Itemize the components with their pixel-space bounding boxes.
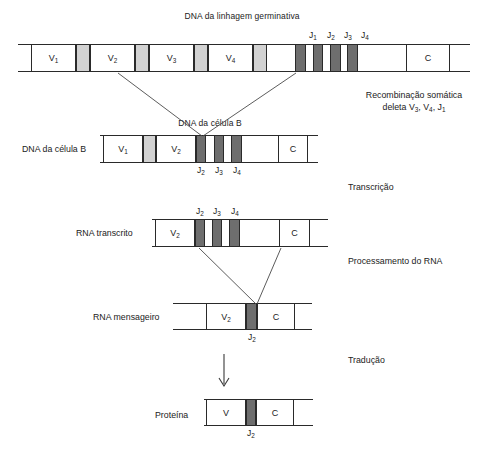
segment-label-c: C (279, 144, 307, 154)
b-cell-dna-bar: V1 V2 C (100, 135, 318, 163)
spacer-2 (135, 45, 149, 71)
segment-label-c: C (407, 53, 449, 63)
segment-j2 (246, 304, 257, 329)
segment-label-c: C (280, 228, 309, 238)
segment-label-v2: V2 (91, 53, 134, 63)
messenger-rna-bar: V2 C (173, 303, 312, 330)
segment-j2 (313, 45, 323, 71)
protein-bar: V C (204, 399, 313, 426)
annotation-translation: Tradução (348, 355, 480, 367)
splice-line-right (257, 248, 281, 304)
segment-label-v2: V2 (156, 228, 194, 238)
figure-canvas: DNA da linhagem germinativa V1 V2 V3 V4 … (0, 0, 484, 456)
segment-v3: V3 (149, 45, 194, 71)
figure-title: DNA da linhagem germinativa (0, 11, 484, 22)
germline-dna-bar: V1 V2 V3 V4 C (18, 44, 470, 72)
segment-j4 (229, 220, 240, 246)
spacer-3 (194, 45, 208, 71)
segment-label-v2: V2 (207, 312, 245, 322)
segment-v1: V1 (31, 45, 76, 71)
row-label-protein: Proteína (155, 410, 188, 420)
j-tick-label-j4: J4 (233, 165, 241, 175)
segment-j1 (295, 45, 306, 71)
segment-c: C (278, 136, 308, 162)
annotation-recombination-line1: Recombinação somática (348, 90, 480, 102)
j-tick-label-j2: J2 (248, 332, 256, 342)
segment-j3 (212, 220, 222, 246)
splice-line-left (199, 248, 256, 304)
j-tick-label-j2: J2 (197, 165, 205, 175)
row-label-messenger-rna: RNA mensageiro (93, 312, 160, 322)
segment-c: C (406, 45, 450, 71)
spacer-4 (253, 45, 267, 71)
segment-label-c: C (258, 312, 294, 322)
segment-v4: V4 (208, 45, 253, 71)
rna-transcript-bar: V2 C (152, 219, 328, 247)
annotation-recombination-line2: deleta V3, V4, J1 (348, 102, 480, 114)
j-tick-label-j3: J3 (215, 165, 223, 175)
b-cell-dna-caption: DNA da célula B (140, 118, 280, 129)
row-label-b-cell-dna: DNA da célula B (22, 144, 86, 154)
segment-c: C (256, 400, 294, 425)
segment-label-v1: V1 (32, 53, 75, 63)
j-tick-label-j3: J3 (344, 30, 352, 40)
j-tick-label-j1: J1 (309, 30, 317, 40)
annotation-transcription: Transcrição (348, 182, 480, 194)
j-tick-label-j2: J2 (247, 428, 255, 438)
segment-label-v4: V4 (209, 53, 252, 63)
row-label-rna-transcript: RNA transcrito (76, 228, 133, 238)
j-tick-label-j3: J3 (213, 206, 221, 216)
segment-c: C (279, 220, 310, 246)
segment-label-v: V (207, 408, 245, 418)
segment-v2: V2 (206, 304, 246, 329)
segment-label-v3: V3 (150, 53, 193, 63)
segment-v: V (206, 400, 246, 425)
segment-v1: V1 (103, 136, 143, 162)
segment-c: C (257, 304, 295, 329)
j-tick-label-j2: J2 (196, 206, 204, 216)
annotation-rna-processing: Processamento do RNA (348, 256, 484, 268)
segment-j2 (196, 136, 206, 162)
segment-label-v1: V1 (104, 144, 142, 154)
spacer-1 (143, 136, 156, 162)
segment-v2: V2 (90, 45, 135, 71)
j-tick-label-j2: J2 (327, 30, 335, 40)
segment-j3 (214, 136, 224, 162)
segment-j2 (246, 400, 256, 425)
annotation-recombination: Recombinação somática deleta V3, V4, J1 (348, 90, 480, 113)
segment-v2: V2 (155, 220, 195, 246)
translation-arrow-head (219, 378, 229, 386)
j-tick-label-j4: J4 (361, 30, 369, 40)
spacer-1 (76, 45, 90, 71)
segment-v2: V2 (156, 136, 196, 162)
j-tick-label-j4: J4 (231, 206, 239, 216)
segment-label-v2: V2 (157, 144, 195, 154)
segment-j4 (231, 136, 242, 162)
segment-label-c: C (257, 408, 293, 418)
segment-j4 (347, 45, 358, 71)
segment-j3 (330, 45, 341, 71)
segment-j2 (195, 220, 205, 246)
